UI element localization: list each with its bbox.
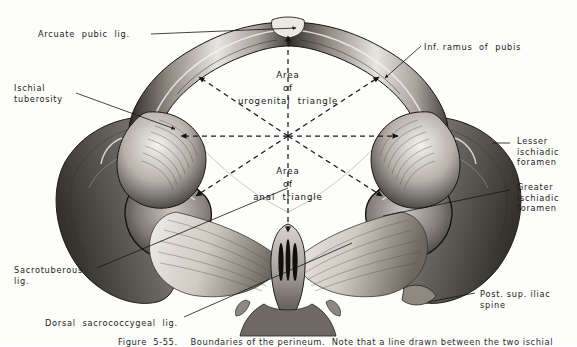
label-area-urogenital-triangle: Area of urogenital triangle <box>188 69 388 108</box>
label-ischial-tuberosity: Ischial tuberosity <box>14 83 63 104</box>
figure-caption: Figure 5-55. Boundaries of the perineum.… <box>118 337 553 347</box>
label-dorsal-sacrococcygeal-lig: Dorsal sacrococcygeal lig. <box>45 318 178 329</box>
label-arcuate-pubic-lig: Arcuate pubic lig. <box>38 29 130 40</box>
label-inf-ramus-of-pubis: Inf. ramus of pubis <box>424 42 521 53</box>
label-lesser-ischiadic-foramen: Lesser ischiadic foramen <box>517 136 559 168</box>
label-greater-ischiadic-foramen: Greater ischiadic foramen <box>517 182 559 214</box>
label-post-sup-iliac-spine: Post. sup. iliac spine <box>480 289 551 310</box>
label-sacrotuberous-lig: Sacrotuberous lig. <box>14 265 83 286</box>
label-area-anal-triangle: Area of anal triangle <box>188 165 388 204</box>
